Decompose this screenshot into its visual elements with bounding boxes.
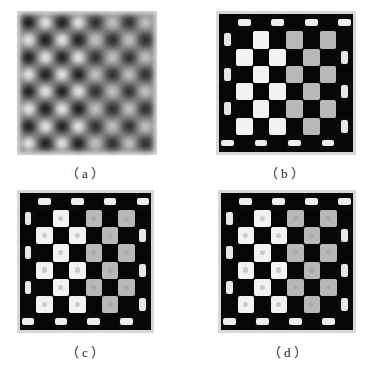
grid-cell [236,66,253,83]
grid-cell [87,31,104,48]
grid-cell [104,49,121,66]
grid-cell [320,313,337,330]
grid-cell [271,296,288,313]
grid-cell [37,100,54,117]
grid-cell [37,31,54,48]
grid-cell [53,296,69,313]
grid-cell [102,296,118,313]
grid-cell [70,31,87,48]
grid-cell [320,244,337,261]
grid-cell [271,313,288,330]
grid-cell [269,49,286,66]
grid-cell [118,296,134,313]
grid-cell [286,49,303,66]
grid-cell [219,66,236,83]
grid-cell [320,118,337,135]
grid-cell [36,279,52,296]
grid-cell [286,83,303,100]
grid-cell [104,66,121,83]
grid-cell [86,279,102,296]
grid-cell [254,296,271,313]
grid-cell [269,14,286,31]
grid-cell [304,296,321,313]
grid-cell [137,100,154,117]
grid-cell [20,66,37,83]
grid-cell [86,296,102,313]
grid-cell [304,262,321,279]
grid-cell [36,210,52,227]
grid-cell [303,31,320,48]
grid-cell [70,83,87,100]
grid-cell [303,118,320,135]
grid-cell [102,244,118,261]
grid-cell [253,66,270,83]
grid-cell [336,100,353,117]
grid-cell [102,210,118,227]
grid-cell [86,193,102,210]
grid-cell [286,31,303,48]
grid-cell [236,118,253,135]
grid-cell [36,313,52,330]
grid-cell [104,31,121,48]
grid-cell [287,279,304,296]
grid-cell [135,279,151,296]
grid-cell [303,49,320,66]
grid-cell [236,49,253,66]
grid-cell [238,193,255,210]
grid-cell [69,313,85,330]
grid-cell [37,49,54,66]
grid-cell [87,135,104,152]
grid-cell [219,135,236,152]
panel-d-grid [221,193,353,330]
grid-cell [118,313,134,330]
grid-cell [221,279,238,296]
grid-cell [221,262,238,279]
grid-cell [104,118,121,135]
grid-cell [87,49,104,66]
grid-cell [20,244,36,261]
grid-cell [337,296,354,313]
grid-cell [54,14,71,31]
grid-cell [286,100,303,117]
grid-cell [269,31,286,48]
grid-cell [137,118,154,135]
grid-cell [304,244,321,261]
grid-cell [320,227,337,244]
grid-cell [221,210,238,227]
grid-cell [53,244,69,261]
grid-cell [221,313,238,330]
grid-cell [253,14,270,31]
panel-a-grid [20,14,154,152]
grid-cell [304,279,321,296]
panel-c-label: （c） [66,342,107,361]
grid-cell [118,193,134,210]
grid-cell [69,244,85,261]
panel-d-label: （d） [268,342,310,361]
grid-cell [37,14,54,31]
grid-cell [137,66,154,83]
grid-cell [135,262,151,279]
grid-cell [253,49,270,66]
grid-cell [135,210,151,227]
grid-cell [287,210,304,227]
grid-cell [253,118,270,135]
grid-cell [269,100,286,117]
grid-cell [37,83,54,100]
grid-cell [236,135,253,152]
grid-cell [236,14,253,31]
grid-cell [20,296,36,313]
grid-cell [87,83,104,100]
grid-cell [320,210,337,227]
grid-cell [102,313,118,330]
grid-cell [287,262,304,279]
grid-cell [287,244,304,261]
grid-cell [36,262,52,279]
grid-cell [238,296,255,313]
panel-b-image [216,11,356,155]
grid-cell [87,14,104,31]
grid-cell [219,100,236,117]
panel-a-image [17,11,157,155]
grid-cell [271,193,288,210]
grid-cell [336,66,353,83]
grid-cell [20,100,37,117]
